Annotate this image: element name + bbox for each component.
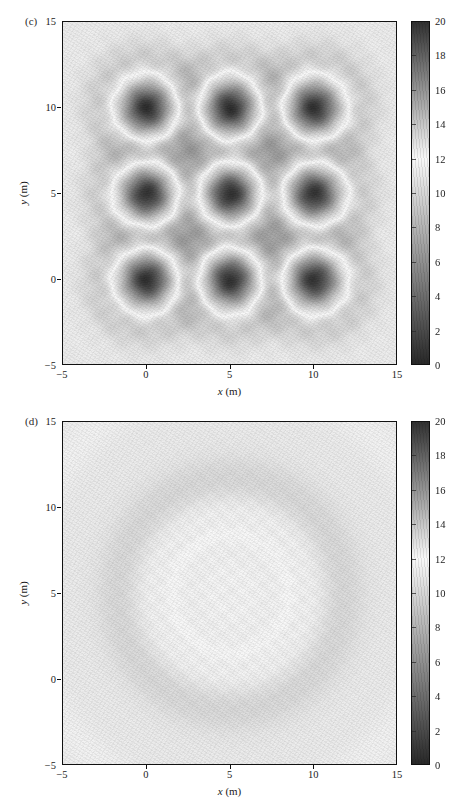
panel-c-ytickmark-10: [57, 107, 61, 108]
colorbar-tick-mark: [412, 331, 416, 332]
colorbar-tick-mark: [412, 90, 416, 91]
panel-c-ytickmark-0: [57, 279, 61, 280]
panel-d-yaxis-unit: (m): [17, 581, 29, 600]
colorbar-tick-label: 18: [435, 50, 446, 61]
colorbar-tick-mark: [412, 524, 416, 525]
colorbar-tick-label: 2: [435, 725, 440, 736]
panel-c-ytickmark-5: [57, 193, 61, 194]
panel-c-ytick-0: 0: [32, 274, 56, 285]
colorbar-tick-label: 20: [435, 416, 446, 427]
colorbar-tick-mark: [412, 455, 416, 456]
panel-d-xaxis-unit: (m): [223, 785, 242, 797]
panel-d-xtickmark-0: [146, 765, 147, 769]
panel-c-ytick-m5: −5: [32, 360, 56, 371]
panel-c-xtick-15: 15: [392, 369, 403, 380]
panel-c-xtick-5: 5: [227, 369, 232, 380]
panel-d-xtick-5: 5: [227, 769, 232, 780]
panel-d-plot-area: [62, 421, 397, 765]
colorbar-tick-mark: [412, 227, 416, 228]
colorbar-tick-label: 18: [435, 450, 446, 461]
panel-c-yaxis-title: y (m): [17, 181, 29, 205]
colorbar-tick-label: 14: [435, 519, 446, 530]
panel-d-ytick-0: 0: [32, 674, 56, 685]
panel-d-ytick-15: 15: [32, 416, 56, 427]
colorbar-tick-mark: [412, 559, 416, 560]
colorbar-tick-mark: [412, 731, 416, 732]
colorbar-tick-mark: [412, 124, 416, 125]
panel-d-ytick-m5: −5: [32, 760, 56, 771]
colorbar-tick-label: 8: [435, 222, 440, 233]
colorbar-tick-label: 0: [435, 360, 440, 371]
panel-d-xtickmark-10: [313, 765, 314, 769]
panel-c-xtickmark-0: [146, 365, 147, 369]
panel-c-xtick-m5: −5: [56, 369, 67, 380]
panel-c-xtick-0: 0: [143, 369, 148, 380]
panel-d-xtick-m5: −5: [56, 769, 67, 780]
panel-d-xaxis-title: x (m): [218, 785, 242, 797]
panel-d-ytick-5: 5: [32, 588, 56, 599]
panel-c-heatmap: [63, 22, 396, 364]
panel-d-ytick-10: 10: [32, 502, 56, 513]
colorbar-tick-label: 20: [435, 16, 446, 27]
panel-c-ytick-10: 10: [32, 102, 56, 113]
colorbar-tick-mark: [412, 262, 416, 263]
colorbar-tick-mark: [412, 159, 416, 160]
colorbar-tick-label: 2: [435, 325, 440, 336]
panel-c-ytick-5: 5: [32, 188, 56, 199]
colorbar-tick-mark: [412, 296, 416, 297]
panel-c-plot-area: [62, 21, 397, 365]
panel-c-xaxis-unit: (m): [223, 385, 242, 397]
panel-c-xaxis-title: x (m): [218, 385, 242, 397]
colorbar-tick-label: 14: [435, 119, 446, 130]
colorbar-tick-mark: [412, 627, 416, 628]
colorbar-tick-label: 16: [435, 484, 446, 495]
panel-d-xtickmark-5: [230, 765, 231, 769]
panel-d-xtick-10: 10: [308, 769, 319, 780]
panel-d-xtick-15: 15: [392, 769, 403, 780]
colorbar-tick-mark: [412, 55, 416, 56]
colorbar-tick-label: 6: [435, 256, 440, 267]
panel-d-yaxis-title: y (m): [17, 581, 29, 605]
panel-d-ytickmark-10: [57, 507, 61, 508]
panel-d-heatmap: [63, 422, 396, 764]
colorbar-tick-label: 6: [435, 656, 440, 667]
colorbar-tick-mark: [412, 662, 416, 663]
colorbar-tick-mark: [412, 696, 416, 697]
colorbar-tick-mark: [412, 593, 416, 594]
colorbar-tick-label: 4: [435, 691, 440, 702]
heatmap-canvas: [63, 422, 397, 765]
panel-c-yaxis-unit: (m): [17, 181, 29, 200]
colorbar-tick-mark: [412, 490, 416, 491]
colorbar-tick-mark: [412, 193, 416, 194]
panel-d-yaxis-symbol: y: [17, 600, 29, 605]
heatmap-canvas: [63, 22, 397, 365]
colorbar-tick-label: 10: [435, 588, 446, 599]
panel-c-xtick-10: 10: [308, 369, 319, 380]
panel-d-xtick-0: 0: [143, 769, 148, 780]
panel-c-xtickmark-5: [230, 365, 231, 369]
panel-d: (d) 15 10 5 0 −5 −5 0 5 10 15 x (m) y (m…: [0, 400, 455, 811]
panel-d-ytickmark-5: [57, 593, 61, 594]
colorbar-tick-label: 8: [435, 622, 440, 633]
panel-c-ytick-15: 15: [32, 16, 56, 27]
colorbar-tick-label: 4: [435, 291, 440, 302]
panel-c-yaxis-symbol: y: [17, 200, 29, 205]
colorbar-tick-label: 10: [435, 188, 446, 199]
panel-d-ytickmark-0: [57, 679, 61, 680]
colorbar-tick-label: 0: [435, 760, 440, 771]
colorbar-tick-label: 12: [435, 553, 446, 564]
colorbar-tick-label: 16: [435, 84, 446, 95]
panel-c-xtickmark-10: [313, 365, 314, 369]
panel-c: (c) 15 10 5 0 −5 −5 0 5 10 15 x (m) y (m…: [0, 0, 455, 400]
colorbar-tick-label: 12: [435, 153, 446, 164]
